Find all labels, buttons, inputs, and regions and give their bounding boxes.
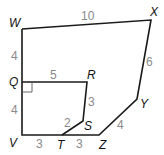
side-yz-length: 4: [117, 118, 124, 132]
vertex-q-label: Q: [9, 75, 18, 89]
side-rs-length: 3: [88, 95, 95, 109]
side-vt-length: 3: [36, 137, 43, 151]
side-wq-length: 4: [11, 49, 18, 63]
vertex-y-label: Y: [140, 97, 149, 111]
side-xy-length: 6: [146, 55, 153, 69]
side-tz-length: 3: [76, 137, 83, 151]
geometry-diagram: W X Y Z T S R Q V 10 6 4 3 3 2 3 5 4 4: [0, 0, 164, 155]
right-angle-marker: [22, 82, 32, 92]
side-qv-length: 4: [11, 103, 18, 117]
side-qr-length: 5: [50, 68, 57, 82]
vertex-r-label: R: [87, 68, 96, 82]
vertex-x-label: X: [149, 5, 159, 19]
vertex-s-label: S: [84, 119, 92, 133]
vertex-v-label: V: [9, 136, 18, 150]
vertex-t-label: T: [57, 138, 66, 152]
vertex-z-label: Z: [98, 138, 107, 152]
vertex-w-label: W: [9, 16, 22, 30]
side-st-length: 2: [64, 116, 71, 130]
side-wx-length: 10: [81, 9, 95, 23]
